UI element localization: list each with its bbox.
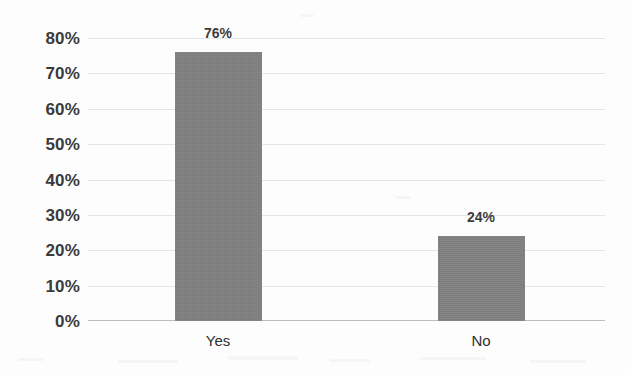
y-tick-label-10: 10% xyxy=(18,277,80,294)
x-category-label-no: No xyxy=(421,333,541,348)
scan-artifact xyxy=(18,358,44,361)
gridline-20 xyxy=(88,250,605,251)
y-tick-label-20: 20% xyxy=(18,242,80,259)
scan-artifact xyxy=(228,356,298,360)
bar-no[interactable] xyxy=(438,236,525,321)
scan-artifact xyxy=(300,14,314,17)
y-tick-label-70: 70% xyxy=(18,65,80,82)
y-tick-label-40: 40% xyxy=(18,171,80,188)
scan-artifact xyxy=(530,360,586,363)
scan-artifact xyxy=(330,359,370,362)
chart-screenshot: 80% 70% 60% 50% 40% 30% 20% 10% 0% 76% 2… xyxy=(0,0,631,375)
scan-artifact xyxy=(118,360,178,363)
bar-value-label-yes: 76% xyxy=(178,26,258,40)
gridline-30 xyxy=(88,215,605,216)
gridline-60 xyxy=(88,109,605,110)
plot-area xyxy=(88,38,605,321)
bar-yes[interactable] xyxy=(175,52,262,321)
gridline-10 xyxy=(88,286,605,287)
bar-value-label-no: 24% xyxy=(441,210,521,224)
gridline-40 xyxy=(88,180,605,181)
y-tick-label-50: 50% xyxy=(18,136,80,153)
gridline-70 xyxy=(88,73,605,74)
gridline-80 xyxy=(88,38,605,39)
gridline-50 xyxy=(88,144,605,145)
y-tick-label-80: 80% xyxy=(18,30,80,47)
x-category-label-yes: Yes xyxy=(158,333,278,348)
y-tick-label-30: 30% xyxy=(18,206,80,223)
scan-artifact xyxy=(420,357,486,360)
x-axis-line xyxy=(88,320,605,321)
y-tick-label-60: 60% xyxy=(18,100,80,117)
y-tick-label-0: 0% xyxy=(18,313,80,330)
